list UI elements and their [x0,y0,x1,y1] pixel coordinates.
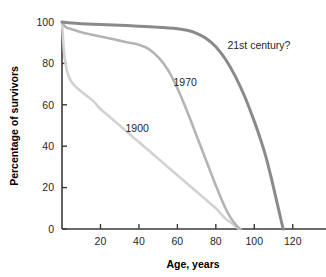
y-tick-label: 60 [42,99,54,111]
curve-label-1970: 1970 [174,76,198,88]
y-tick-label: 0 [48,223,54,235]
curve-21st-century [62,22,283,229]
y-tick-label: 40 [42,140,54,152]
y-tick-label: 20 [42,181,54,193]
y-tick-label: 100 [36,16,54,28]
x-tick-label: 120 [284,235,302,247]
y-axis-title: Percentage of survivors [8,66,20,186]
survivorship-curve-figure: 020406080100 20406080100120 1900197021st… [0,0,326,277]
chart-canvas: 020406080100 20406080100120 1900197021st… [0,0,326,277]
x-tick-label: 60 [172,235,184,247]
curve-label-1900: 1900 [125,122,149,134]
curve-1900 [62,22,239,229]
curve-1970 [62,22,241,229]
y-axis-tick-labels: 020406080100 [36,16,54,235]
curve-annotations: 1900197021st century? [125,39,290,134]
x-tick-label: 100 [246,235,264,247]
x-tick-label: 40 [133,235,145,247]
x-tick-label: 80 [210,235,222,247]
x-tick-label: 20 [95,235,107,247]
curve-label-21st-century: 21st century? [227,39,290,51]
data-curves-group [62,22,283,229]
y-tick-label: 80 [42,57,54,69]
x-axis-title: Age, years [166,258,219,270]
x-axis-tick-labels: 20406080100120 [95,235,302,247]
